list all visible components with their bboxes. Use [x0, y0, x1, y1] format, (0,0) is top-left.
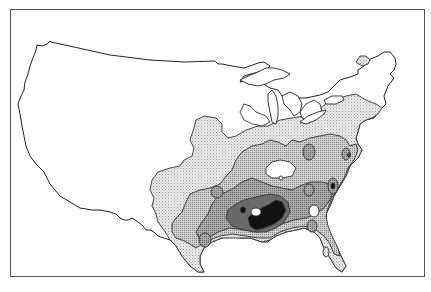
contour-island-georgia — [304, 184, 314, 196]
cutout-alabama-small — [279, 176, 283, 180]
contour-core-carolina — [331, 183, 335, 189]
map-figure — [0, 0, 431, 292]
contour-island-florida — [323, 247, 329, 257]
cutout-georgia — [309, 205, 319, 217]
contour-island-kentucky — [303, 144, 315, 160]
contour-island-arkansas — [211, 186, 223, 198]
cutout-mississippi — [251, 208, 261, 216]
contour-island-florida-panhandle — [307, 220, 317, 232]
contour-core-small — [241, 207, 246, 213]
contour-island-louisiana — [199, 233, 211, 247]
contour-island-maine — [356, 56, 370, 66]
contour-core-virginia — [347, 153, 350, 157]
us-map — [0, 0, 431, 292]
